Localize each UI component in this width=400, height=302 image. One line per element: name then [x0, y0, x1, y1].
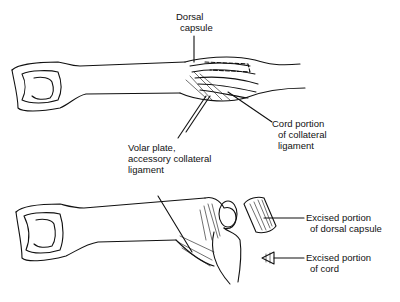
label-line: of collateral — [272, 129, 327, 140]
label-line: Volar plate, — [128, 142, 211, 153]
label-line: of cord — [306, 263, 371, 274]
label-line: Cord portion — [272, 118, 327, 129]
label-line: Excised portion — [306, 212, 382, 223]
label-cord-portion: Cord portion of collateral ligament — [272, 118, 327, 151]
label-volar-plate: Volar plate, accessory collateral ligame… — [128, 142, 211, 175]
label-excised-dorsal-capsule: Excised portion of dorsal capsule — [306, 212, 382, 234]
label-excised-cord: Excised portion of cord — [306, 252, 371, 274]
label-line: ligament — [272, 140, 327, 151]
label-dorsal-capsule: Dorsal capsule — [176, 11, 213, 33]
label-line: Dorsal — [176, 11, 213, 22]
label-line: capsule — [176, 22, 213, 33]
label-line: ligament — [128, 164, 211, 175]
label-line: Excised portion — [306, 252, 371, 263]
label-line: accessory collateral — [128, 153, 211, 164]
label-line: of dorsal capsule — [306, 223, 382, 234]
diagram-canvas: Dorsal capsule Cord portion of collatera… — [0, 0, 400, 302]
